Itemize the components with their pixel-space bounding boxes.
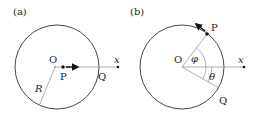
label-p-b: P bbox=[211, 22, 218, 33]
panel-b-label: (b) bbox=[130, 6, 144, 17]
x-axis-end-b bbox=[243, 66, 246, 69]
label-o-b: O bbox=[174, 54, 182, 65]
x-axis-end-a bbox=[117, 66, 120, 69]
panel-a-label: (a) bbox=[13, 6, 27, 17]
label-theta: θ bbox=[209, 71, 215, 82]
point-p-b bbox=[205, 32, 208, 35]
center-point-a bbox=[54, 66, 56, 68]
label-o-a: O bbox=[49, 54, 57, 65]
label-q-b: Q bbox=[219, 95, 227, 106]
label-q-a: Q bbox=[98, 71, 106, 82]
label-x-b: x bbox=[238, 54, 244, 65]
diagram-canvas: (a) O P Q x R (b) O P bbox=[0, 0, 254, 122]
panel-b: (b) O P Q x φ θ bbox=[130, 6, 245, 109]
label-phi: φ bbox=[191, 53, 198, 64]
label-x-a: x bbox=[114, 54, 120, 65]
point-p-a bbox=[61, 65, 64, 68]
label-r-a: R bbox=[34, 83, 43, 94]
panel-a: (a) O P Q x R bbox=[13, 6, 120, 109]
label-p-a: P bbox=[60, 71, 67, 82]
